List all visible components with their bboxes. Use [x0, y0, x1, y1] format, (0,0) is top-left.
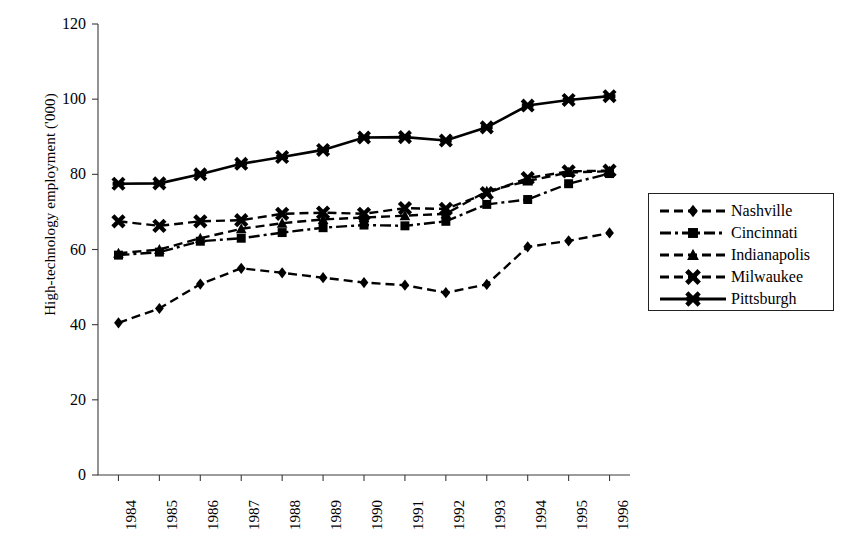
legend-item-nashville: Nashville [649, 200, 833, 222]
y-tick-label: 40 [44, 317, 86, 333]
diamond-marker [196, 278, 205, 289]
y-tick-label: 0 [44, 467, 86, 483]
square-marker [564, 179, 573, 188]
asterisk-marker [194, 169, 206, 180]
x-tick-label: 1994 [534, 500, 549, 530]
series-pittsburgh [113, 91, 616, 190]
diamond-marker [360, 277, 369, 288]
asterisk-marker [399, 132, 411, 143]
diamond-marker [237, 263, 246, 274]
x-tick-label: 1989 [329, 500, 344, 530]
square-marker [688, 228, 698, 238]
square-marker [237, 234, 246, 243]
diamond-marker [401, 280, 410, 291]
square-marker [523, 195, 532, 204]
diamond-marker [688, 205, 698, 217]
y-tick-label: 60 [44, 242, 86, 258]
axes-lines [92, 24, 630, 481]
diamond-marker [605, 227, 614, 238]
x-tick-label: 1987 [247, 500, 262, 530]
diamond-marker [564, 235, 573, 246]
asterisk-marker [563, 94, 575, 105]
x-tick-label: 1990 [370, 500, 385, 530]
legend-sample [656, 223, 730, 243]
diamond-marker [441, 287, 450, 298]
asterisk-marker [154, 178, 166, 189]
asterisk-marker [481, 122, 493, 133]
x-tick-label: 1996 [616, 500, 631, 530]
x-tick-label: 1992 [452, 500, 467, 530]
asterisk-marker [113, 178, 125, 189]
chart-legend: NashvilleCincinnatiIndianapolisMilwaukee… [648, 193, 834, 311]
asterisk-marker [440, 135, 452, 146]
chart-figure: High-technology employment ('000) 120100… [0, 0, 843, 543]
x-tick-label: 1991 [411, 500, 426, 530]
diamond-marker [523, 241, 532, 252]
data-series-group [113, 91, 616, 329]
x-tick-label: 1995 [575, 500, 590, 530]
y-tick-label: 20 [44, 392, 86, 408]
asterisk-marker [522, 100, 534, 111]
square-marker [278, 228, 287, 237]
diamond-marker [278, 267, 287, 278]
y-tick-label: 80 [44, 166, 86, 182]
legend-item-indianapolis: Indianapolis [649, 244, 833, 266]
legend-sample [656, 267, 730, 287]
x-tick-label: 1993 [493, 500, 508, 530]
legend-sample [656, 245, 730, 265]
legend-item-milwaukee: Milwaukee [649, 266, 833, 288]
legend-label: Pittsburgh [731, 291, 797, 307]
asterisk-marker [686, 293, 699, 305]
square-marker [319, 223, 328, 232]
legend-sample [656, 201, 730, 221]
y-tick-label: 120 [44, 16, 86, 32]
legend-item-pittsburgh: Pittsburgh [649, 288, 833, 310]
legend-label: Milwaukee [731, 269, 803, 285]
x-tick-label: 1986 [206, 500, 221, 530]
axis-lines [98, 24, 630, 475]
asterisk-marker [235, 158, 247, 169]
square-marker [400, 221, 409, 230]
diamond-marker [155, 303, 164, 314]
legend-label: Cincinnati [731, 225, 798, 241]
y-tick-label: 100 [44, 91, 86, 107]
asterisk-marker [604, 91, 616, 102]
legend-label: Indianapolis [731, 247, 810, 263]
diamond-marker [319, 272, 328, 283]
x-tick-label: 1985 [165, 500, 180, 530]
x-tick-label: 1984 [124, 500, 139, 530]
y-axis-title: High-technology employment ('000) [42, 0, 59, 415]
diamond-marker [114, 317, 123, 328]
legend-sample [656, 289, 730, 309]
asterisk-marker [317, 144, 329, 155]
asterisk-marker [358, 132, 370, 143]
legend-item-cincinnati: Cincinnati [649, 222, 833, 244]
legend-label: Nashville [731, 203, 792, 219]
diamond-marker [482, 279, 491, 290]
asterisk-marker [276, 151, 288, 162]
x-tick-label: 1988 [288, 500, 303, 530]
square-marker [482, 200, 491, 209]
